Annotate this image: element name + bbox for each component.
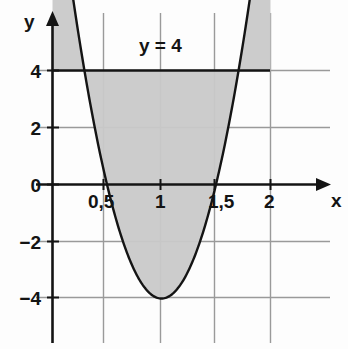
xtick-label-0.5: 0,5 [88, 192, 114, 211]
ytick-label-2: 2 [18, 119, 41, 138]
xtick-label-1: 1 [155, 192, 166, 211]
line-equation-label: y = 4 [139, 36, 182, 55]
xtick-label-2: 2 [264, 192, 275, 211]
chart-figure: y x 4 2 0 −2 −4 0,5 1 1,5 2 y = 4 [0, 0, 348, 349]
ytick-label-4: 4 [18, 62, 41, 81]
xtick-label-1.5: 1,5 [208, 192, 234, 211]
ytick-label-minus-2: −2 [8, 233, 41, 252]
ytick-label-minus-4: −4 [8, 289, 41, 308]
ytick-label-0: 0 [18, 176, 41, 195]
y-axis-label: y [24, 12, 35, 31]
x-axis-label: x [331, 191, 342, 210]
x-axis-arrowhead [316, 178, 331, 191]
